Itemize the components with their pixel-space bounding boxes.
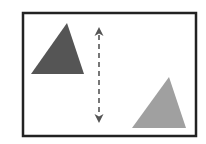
dark-triangle-shape bbox=[31, 23, 84, 74]
diagram-svg bbox=[0, 0, 206, 144]
light-triangle-shape bbox=[132, 77, 186, 128]
arrow-head-up-icon bbox=[95, 27, 104, 36]
arrow-head-down-icon bbox=[95, 114, 104, 123]
double-headed-arrow-icon bbox=[95, 27, 104, 123]
diagram-canvas bbox=[0, 0, 206, 144]
